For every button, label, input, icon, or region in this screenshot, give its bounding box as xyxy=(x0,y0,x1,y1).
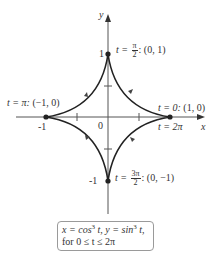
coord: : (0, 1) xyxy=(139,44,166,55)
coord: (1, 0) xyxy=(183,102,205,113)
t-prefix: t = xyxy=(115,172,127,183)
caption-line-1: x = cos3 t, y = sin3 t, xyxy=(62,224,149,236)
y-axis-arrow-icon xyxy=(105,14,111,22)
denominator: 2 xyxy=(132,51,138,59)
label-bottom-point: t = 3π2: (0, −1) xyxy=(115,170,174,187)
fraction: π2 xyxy=(132,42,138,59)
caption-y-eq: t, y = sin xyxy=(95,224,133,235)
origin-label: 0 xyxy=(98,121,103,131)
label-right-point: t = 0: (1, 0) xyxy=(158,103,205,113)
coord: : (0, −1) xyxy=(142,172,175,183)
t-prefix: t = 0: xyxy=(158,102,181,113)
x-axis-label: x xyxy=(201,122,205,132)
coord: (−1, 0) xyxy=(32,97,59,108)
equation-caption-box: x = cos3 t, y = sin3 t, for 0 ≤ t ≤ 2π xyxy=(57,221,154,251)
t-prefix: t = π: xyxy=(7,97,30,108)
label-top-point: t = π2: (0, 1) xyxy=(116,42,166,59)
denominator: 2 xyxy=(131,179,141,187)
caption-tail: t, xyxy=(137,224,145,235)
t-prefix: t = xyxy=(116,44,128,55)
y-tick-1: 1 xyxy=(99,49,104,59)
caption-x-eq: x = cos xyxy=(62,224,92,235)
x-tick-neg1: -1 xyxy=(38,122,46,132)
label-left-point: t = π: (−1, 0) xyxy=(7,98,60,108)
caption-line-2: for 0 ≤ t ≤ 2π xyxy=(62,236,149,248)
y-axis-label: y xyxy=(99,10,103,20)
label-right-point-alt: t = 2π xyxy=(158,122,183,132)
astroid-plot xyxy=(0,0,217,255)
x-axis-arrow-icon xyxy=(197,114,205,120)
y-tick-neg1: -1 xyxy=(89,176,97,186)
fraction: 3π2 xyxy=(131,170,141,187)
